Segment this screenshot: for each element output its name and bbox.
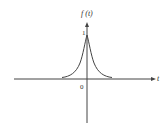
y-axis-label: f (t): [81, 10, 93, 18]
y-axis: [85, 22, 89, 123]
x-axis: [14, 77, 156, 81]
chart-canvas: [0, 0, 167, 127]
origin-label: 0: [80, 84, 84, 91]
y-axis-arrow-icon: [85, 22, 89, 27]
x-axis-label: t: [157, 75, 159, 83]
x-axis-arrow-icon: [151, 77, 156, 81]
peak-value-label: 1: [82, 30, 86, 37]
